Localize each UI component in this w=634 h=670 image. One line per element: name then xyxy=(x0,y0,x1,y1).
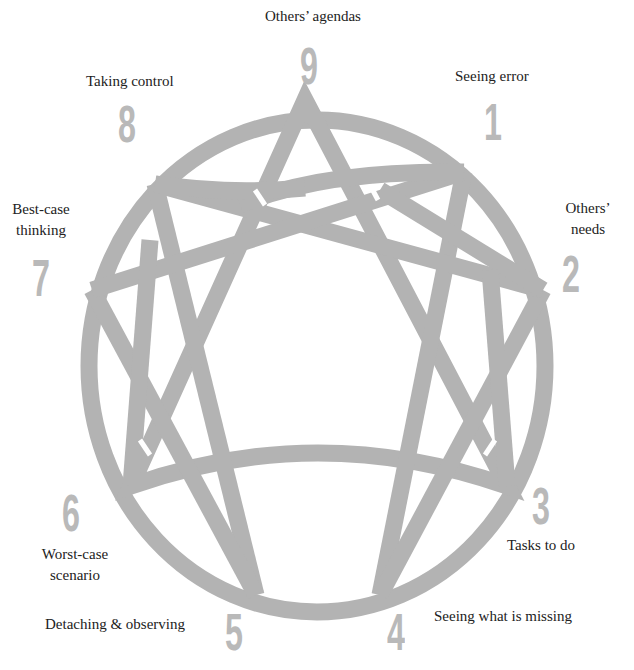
point-number-5: 5 xyxy=(225,606,242,658)
point-label-7-line2: thinking xyxy=(6,220,76,241)
point-label-1: Seeing error xyxy=(455,66,529,87)
point-label-3: Tasks to do xyxy=(507,535,575,556)
point-label-6-line2: scenario xyxy=(30,565,120,586)
point-number-1: 1 xyxy=(484,96,501,148)
point-number-6: 6 xyxy=(62,487,79,539)
point-number-7: 7 xyxy=(32,252,49,304)
point-label-6-line1: Worst-case xyxy=(30,544,120,565)
enneagram-diagram: 9 1 2 3 4 5 6 7 8 Others’ agendas Seeing… xyxy=(0,0,634,670)
point-label-8: Taking control xyxy=(86,71,174,92)
point-label-9: Others’ agendas xyxy=(265,6,361,27)
point-label-7-line1: Best-case xyxy=(6,199,76,220)
point-label-5: Detaching & observing xyxy=(45,614,185,635)
point-number-2: 2 xyxy=(562,248,579,300)
point-number-9: 9 xyxy=(300,40,317,92)
point-number-4: 4 xyxy=(387,606,404,658)
point-label-6: Worst-case scenario xyxy=(30,544,120,586)
point-label-7: Best-case thinking xyxy=(6,199,76,241)
point-label-4: Seeing what is missing xyxy=(434,606,572,627)
point-number-8: 8 xyxy=(118,98,135,150)
point-number-3: 3 xyxy=(532,480,549,532)
inner-line-2 xyxy=(155,184,305,191)
point-label-2: Others’ needs xyxy=(558,198,618,240)
point-label-2-line2: needs xyxy=(558,219,618,240)
point-label-2-line1: Others’ xyxy=(558,198,618,219)
